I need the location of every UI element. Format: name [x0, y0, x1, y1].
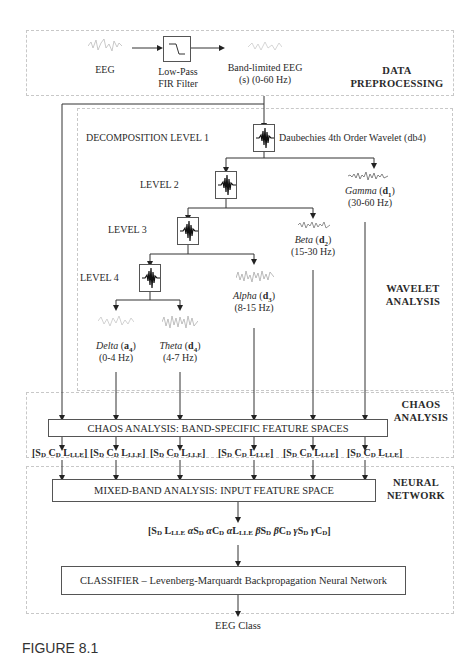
low-pass-response-icon	[167, 41, 187, 57]
chaos-analysis-box: CHAOS ANALYSIS: BAND-SPECIFIC FEATURE SP…	[48, 419, 388, 437]
band-limited-label-2: (s) (0-60 Hz)	[222, 74, 308, 86]
section-title-preprocessing: DATA PREPROCESSING	[348, 64, 446, 90]
eeg-input-label: EEG	[90, 64, 120, 76]
feature-vector-gamma-a: [SD CD LLLE]	[283, 447, 338, 459]
wavelet-box-level-3	[177, 217, 199, 245]
figure-caption: FIGURE 8.1	[22, 640, 98, 653]
classifier-box: CLASSIFIER – Levenberg-Marquardt Backpro…	[61, 566, 406, 595]
wavelet-name-label: Daubechies 4th Order Wavelet (db4)	[279, 132, 454, 144]
filter-label-1: Low-Pass	[150, 66, 206, 78]
band-limited-label-1: Band-limited EEG	[222, 62, 308, 74]
alpha-waveform-icon	[236, 268, 274, 284]
connector-lines	[0, 0, 476, 653]
eeg-raw-waveform-icon	[88, 36, 122, 54]
level-4-label: LEVEL 4	[80, 272, 140, 284]
band-limited-waveform-icon	[248, 38, 282, 54]
feature-vector-alpha: [SD CD LLLE]	[150, 447, 205, 459]
section-title-neural: NEURAL NETWORK	[380, 476, 452, 502]
feature-vector-beta: [SD CD LLLE]	[218, 447, 273, 459]
wavelet-box-level-4	[139, 264, 161, 292]
input-feature-vector: [SD LLLE αSD αCD αLLLE βSD βCD γSD γCD]	[148, 525, 331, 537]
filter-label-2: FIR Filter	[150, 78, 206, 90]
decomposition-level-1-label: DECOMPOSITION LEVEL 1	[86, 132, 244, 144]
level-3-label: LEVEL 3	[108, 224, 168, 236]
gamma-waveform-icon	[348, 170, 388, 182]
theta-range-label: (4-7 Hz)	[152, 352, 208, 364]
feature-vector-delta: [SD CD LLLE]	[32, 447, 87, 459]
feature-vector-theta: [SD CD LLLE]	[90, 447, 145, 459]
delta-range-label: (0-4 Hz)	[88, 352, 144, 364]
low-pass-filter-box	[163, 36, 191, 62]
level-2-label: LEVEL 2	[140, 179, 200, 191]
theta-waveform-icon	[162, 313, 198, 331]
delta-waveform-icon	[98, 313, 134, 329]
alpha-range-label: (8-15 Hz)	[226, 302, 282, 314]
wavelet-box-level-1	[253, 124, 275, 152]
section-title-chaos: CHAOS ANALYSIS	[392, 398, 450, 424]
feature-vector-gamma-b: [SD CD LLLE]	[347, 447, 402, 459]
beta-range-label: (15-30 Hz)	[283, 246, 343, 258]
eeg-class-output-label: EEG Class	[198, 620, 278, 632]
mixed-band-analysis-box: MIXED-BAND ANALYSIS: INPUT FEATURE SPACE	[52, 479, 376, 502]
section-title-wavelet: WAVELET ANALYSIS	[378, 282, 448, 308]
beta-waveform-icon	[298, 220, 330, 230]
gamma-range-label: (30-60 Hz)	[335, 197, 405, 209]
wavelet-box-level-2	[215, 171, 237, 199]
